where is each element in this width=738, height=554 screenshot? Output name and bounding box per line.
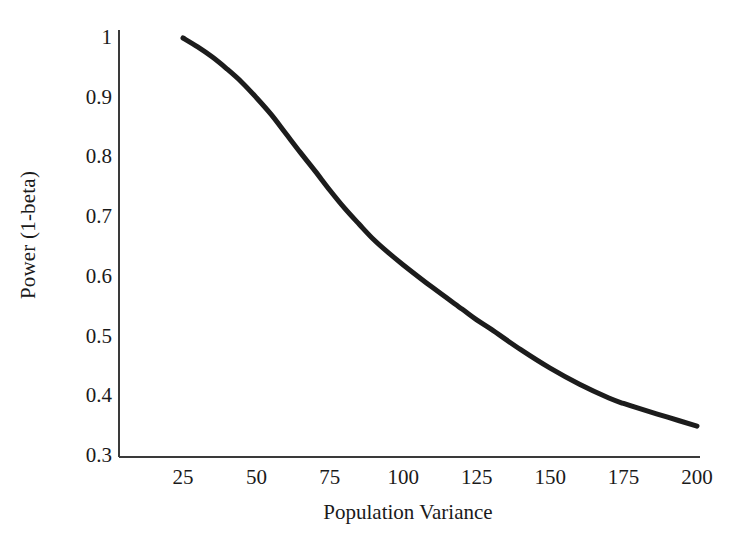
- power-curve-chart: Power (1-beta) 0.30.40.50.60.70.80.91 25…: [0, 0, 738, 554]
- plot-area: [0, 0, 738, 554]
- axis-lines: [119, 30, 700, 457]
- data-series-line: [183, 38, 697, 426]
